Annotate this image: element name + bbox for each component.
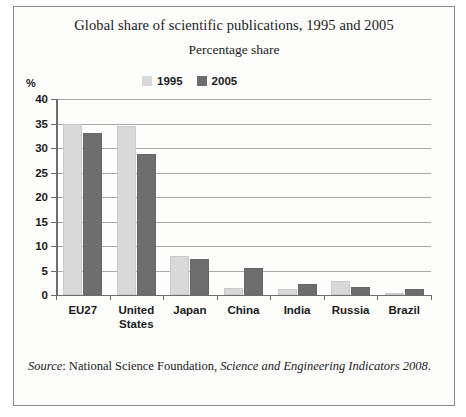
y-tick-label: 5 [22, 265, 48, 277]
source-work: Science and Engineering Indicators 2008 [220, 359, 428, 373]
x-tick-mark [217, 295, 218, 300]
source-separator: : [62, 359, 69, 373]
bar-united-states-2005 [137, 154, 156, 295]
x-tick-mark [431, 295, 432, 300]
bar-eu27-2005 [83, 133, 102, 295]
bar-group [110, 99, 164, 295]
x-tick-mark [377, 295, 378, 300]
plot-wrap: 0510152025303540EU27United StatesJapanCh… [14, 7, 456, 407]
bar-japan-1995 [170, 256, 189, 295]
y-tick-label: 35 [22, 118, 48, 130]
y-axis-line [56, 99, 58, 295]
source-lead: Source [28, 359, 62, 373]
bar-china-2005 [244, 268, 263, 295]
x-tick-mark [56, 295, 57, 300]
source-note: Source: National Science Foundation, Sci… [28, 359, 438, 375]
x-tick-mark [110, 295, 111, 300]
x-axis-label-brazil: Brazil [371, 304, 437, 318]
y-tick-label: 40 [22, 93, 48, 105]
bar-group [270, 99, 324, 295]
x-axis-line [56, 295, 431, 296]
x-tick-mark [324, 295, 325, 300]
bar-india-2005 [298, 284, 317, 295]
y-tick-label: 10 [22, 240, 48, 252]
x-tick-mark [270, 295, 271, 300]
source-terminator: . [428, 359, 431, 373]
bar-group [324, 99, 378, 295]
bar-russia-2005 [351, 287, 370, 295]
y-tick-label: 0 [22, 289, 48, 301]
bar-group [377, 99, 431, 295]
bar-united-states-1995 [117, 126, 136, 295]
x-tick-mark [163, 295, 164, 300]
bar-group [163, 99, 217, 295]
bar-japan-2005 [190, 259, 209, 295]
figure-frame: Global share of scientific publications,… [13, 6, 455, 406]
bar-group [56, 99, 110, 295]
y-tick-label: 15 [22, 216, 48, 228]
y-tick-label: 20 [22, 191, 48, 203]
source-publisher: National Science Foundation, [69, 359, 220, 373]
bar-eu27-1995 [63, 124, 82, 296]
y-tick-label: 30 [22, 142, 48, 154]
y-tick-label: 25 [22, 167, 48, 179]
bars-layer [56, 99, 431, 295]
bar-group [217, 99, 271, 295]
bar-china-1995 [224, 288, 243, 295]
bar-russia-1995 [331, 281, 350, 295]
